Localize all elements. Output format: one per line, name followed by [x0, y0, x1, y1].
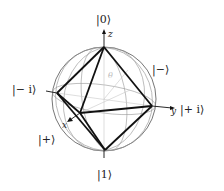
y-axis-label: y — [170, 106, 177, 116]
ket-plus-i-label: |+ i⟩ — [180, 103, 204, 117]
ket-minus-label: |−⟩ — [152, 63, 169, 77]
ket-minus-i-label: |− i⟩ — [12, 83, 36, 97]
bloch-sphere-diagram: |0⟩ z |−⟩ |− i⟩ y |+ i⟩ x |+⟩ |1⟩ θ — [0, 0, 224, 191]
x-arrow-icon — [67, 117, 73, 122]
ket1-label: |1⟩ — [97, 168, 112, 182]
ket0-label: |0⟩ — [96, 13, 111, 27]
z-arrow-icon — [102, 29, 106, 34]
inner-lines — [57, 47, 152, 150]
x-axis-label: x — [62, 120, 67, 130]
z-axis-label: z — [107, 29, 113, 39]
ket-plus-label: |+⟩ — [38, 133, 55, 147]
theta-label: θ — [108, 71, 113, 80]
